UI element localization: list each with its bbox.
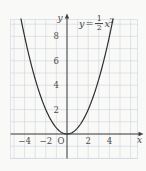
x-tick-label: 4 xyxy=(107,136,112,146)
fraction-numerator: 1 xyxy=(95,15,103,23)
y-tick-label: 6 xyxy=(54,56,59,66)
y-tick-label: 8 xyxy=(54,31,59,41)
function-plot: −4−2242468Oxy y=12x2 xyxy=(0,0,146,171)
y-tick-label: 2 xyxy=(54,105,59,115)
y-axis-label: y xyxy=(56,13,63,23)
fraction-denominator: 2 xyxy=(95,23,103,32)
equation-fraction: 12 xyxy=(95,15,103,32)
x-tick-label: 2 xyxy=(85,136,90,146)
x-axis-label: x xyxy=(137,135,142,145)
equation-exponent: 2 xyxy=(110,17,114,25)
origin-label: O xyxy=(58,136,65,146)
y-axis-arrowhead xyxy=(65,14,69,19)
equation-term: x2 xyxy=(104,18,114,29)
x-tick-label: −4 xyxy=(18,136,31,146)
plot-svg: −4−2242468Oxy xyxy=(0,0,146,171)
x-tick-label: −2 xyxy=(40,136,53,146)
equation-equals: = xyxy=(84,19,94,29)
equation-label: y=12x2 xyxy=(79,15,114,32)
y-tick-label: 4 xyxy=(54,80,59,90)
